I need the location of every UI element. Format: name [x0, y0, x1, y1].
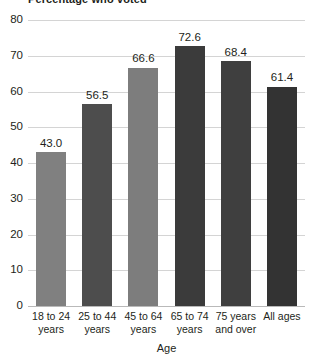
bar[interactable]: 61.4 [267, 87, 297, 307]
bar-value-label: 68.4 [225, 47, 247, 59]
x-axis-title: Age [28, 342, 305, 354]
y-axis-tick-label: 80 [10, 14, 23, 26]
category-label: All ages [259, 310, 305, 335]
bar[interactable]: 72.6 [175, 46, 205, 306]
bar[interactable]: 66.6 [128, 68, 158, 306]
category-axis-labels: 18 to 24 years25 to 44 years45 to 64 yea… [28, 310, 305, 335]
y-axis-tick-label: 40 [10, 157, 23, 169]
category-label: 75 years and over [213, 310, 259, 335]
bar[interactable]: 68.4 [221, 61, 251, 306]
bar-slot: 61.4 [259, 20, 305, 306]
bar-value-label: 66.6 [132, 53, 154, 65]
bar[interactable]: 56.5 [82, 104, 112, 306]
bar-slot: 68.4 [213, 20, 259, 306]
y-axis-tick-label: 70 [10, 50, 23, 62]
bar-value-label: 56.5 [86, 90, 108, 102]
bar-value-label: 43.0 [40, 138, 62, 150]
category-label: 65 to 74 years [167, 310, 213, 335]
plot-area: 01020304050607080 43.056.566.672.668.461… [28, 20, 305, 306]
bar-series: 43.056.566.672.668.461.4 [28, 20, 305, 306]
y-axis-tick-label: 50 [10, 122, 23, 134]
bar-value-label: 61.4 [271, 72, 293, 84]
bar[interactable]: 43.0 [36, 152, 66, 306]
bar-value-label: 72.6 [178, 32, 200, 44]
y-axis-tick-label: 0 [17, 300, 23, 312]
chart-title: Percentage who voted [28, 0, 147, 5]
axis-baseline [28, 306, 305, 307]
bar-slot: 56.5 [74, 20, 120, 306]
bar-slot: 43.0 [28, 20, 74, 306]
bar-slot: 66.6 [120, 20, 166, 306]
y-axis-tick-label: 20 [10, 229, 23, 241]
bar-slot: 72.6 [167, 20, 213, 306]
category-label: 18 to 24 years [28, 310, 74, 335]
y-axis-tick-label: 10 [10, 265, 23, 277]
y-axis-tick-label: 60 [10, 86, 23, 98]
y-axis-tick-label: 30 [10, 193, 23, 205]
category-label: 45 to 64 years [120, 310, 166, 335]
category-label: 25 to 44 years [74, 310, 120, 335]
